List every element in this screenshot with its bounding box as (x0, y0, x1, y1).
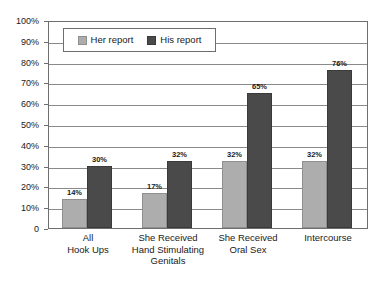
x-axis: All Hook UpsShe Received Hand Stimulatin… (48, 232, 368, 290)
y-tick-mark (44, 229, 48, 230)
x-tick-label: She Received Oral Sex (208, 232, 288, 255)
y-tick-label: 0 (34, 225, 39, 234)
y-tick-label: 100% (16, 17, 39, 26)
y-tick-label: 20% (21, 183, 39, 192)
legend-entry-his-report[interactable]: His report (147, 35, 201, 45)
y-tick-label: 40% (21, 141, 39, 150)
legend-swatch-icon (78, 36, 87, 45)
y-tick-label: 10% (21, 204, 39, 213)
chart-legend: Her reportHis report (63, 28, 216, 52)
bar-her-report[interactable] (302, 161, 327, 228)
y-tick-label: 50% (21, 121, 39, 130)
bar-chart: 100%90%80%70%60%50%40%30%20%10%0 14%30%1… (0, 0, 389, 292)
x-tick-label: All Hook Ups (48, 232, 128, 255)
bar-value-label: 32% (162, 151, 197, 159)
bar-his-report[interactable] (327, 70, 352, 228)
bar-group: 32%76% (289, 22, 369, 228)
bar-group: 32%65% (209, 22, 289, 228)
x-tick-label: She Received Hand Stimulating Genitals (128, 232, 208, 267)
y-tick-label: 70% (21, 79, 39, 88)
legend-entry-her-report[interactable]: Her report (78, 35, 134, 45)
legend-label: His report (160, 35, 201, 45)
y-axis: 100%90%80%70%60%50%40%30%20%10%0 (0, 21, 44, 229)
bar-his-report[interactable] (87, 166, 112, 228)
y-tick-label: 80% (21, 58, 39, 67)
y-tick-label: 60% (21, 100, 39, 109)
bar-his-report[interactable] (247, 93, 272, 228)
bar-her-report[interactable] (142, 193, 167, 228)
y-tick-label: 30% (21, 162, 39, 171)
bar-group: 17%32% (129, 22, 209, 228)
bar-her-report[interactable] (62, 199, 87, 228)
bar-her-report[interactable] (222, 161, 247, 228)
bar-value-label: 30% (82, 156, 117, 164)
bar-value-label: 76% (322, 60, 357, 68)
legend-swatch-icon (147, 36, 156, 45)
x-tick-label: Intercourse (288, 232, 368, 244)
bar-group: 14%30% (49, 22, 129, 228)
legend-label: Her report (91, 35, 134, 45)
y-tick-label: 90% (21, 37, 39, 46)
bar-his-report[interactable] (167, 161, 192, 228)
plot-area: 14%30%17%32%32%65%32%76% (48, 21, 368, 229)
bar-value-label: 65% (242, 83, 277, 91)
